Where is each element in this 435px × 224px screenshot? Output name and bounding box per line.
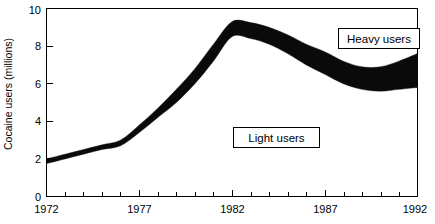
x-tick-label-1992: 1992	[403, 203, 427, 215]
y-tick-label-10: 10	[29, 4, 41, 16]
heavy-users-callout-label: Heavy users	[347, 33, 411, 45]
x-tick-label-1987: 1987	[313, 203, 337, 215]
light-users-callout-label: Light users	[248, 132, 305, 144]
annotation-heavy-users: Heavy users	[339, 29, 420, 49]
cocaine-users-area-chart: 0 2 4 6 8 10 Cocaine users (millions)	[0, 0, 435, 224]
annotation-light-users: Light users	[234, 128, 320, 148]
x-tick-label-1972: 1972	[34, 203, 58, 215]
x-tick-label-1982: 1982	[220, 203, 244, 215]
y-tick-label-2: 2	[35, 153, 41, 165]
y-tick-label-8: 8	[35, 40, 41, 52]
x-tick-label-1977: 1977	[127, 203, 151, 215]
y-tick-label-4: 4	[35, 115, 41, 127]
y-axis-title: Cocaine users (millions)	[2, 38, 14, 150]
chart-container: 0 2 4 6 8 10 Cocaine users (millions)	[0, 0, 435, 224]
y-tick-label-0: 0	[35, 191, 41, 203]
y-tick-label-6: 6	[35, 78, 41, 90]
